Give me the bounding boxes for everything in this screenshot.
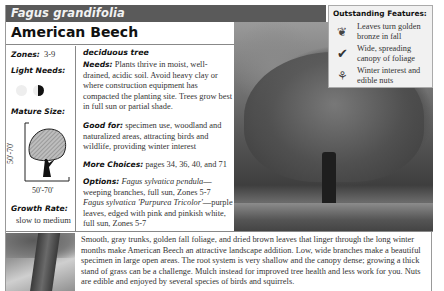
growth-rate-label: Growth Rate: xyxy=(11,204,68,213)
photo-ground xyxy=(234,203,433,231)
feature-item: ⚘ Winter interest and edible nuts xyxy=(329,66,434,86)
common-name: American Beech xyxy=(11,24,138,40)
common-name-bar: American Beech xyxy=(6,22,234,45)
feature-text: Wide, spreading canopy of foliage xyxy=(357,44,433,63)
description-text: Smooth, gray trunks, golden fall foliage… xyxy=(81,235,431,288)
more-choices-section: More Choices: pages 34, 36, 40, and 71 xyxy=(83,160,233,171)
options-label: Options: xyxy=(83,177,119,186)
full-sun-icon xyxy=(16,85,27,96)
options-section: Options: Fagus sylvatica pendula—weeping… xyxy=(83,177,233,230)
details-column: deciduous tree Needs: Plants thrive in m… xyxy=(77,46,233,231)
more-choices-text: pages 34, 36, 40, and 71 xyxy=(145,160,226,169)
good-for-label: Good for: xyxy=(83,121,123,130)
more-choices-label: More Choices: xyxy=(83,160,143,169)
zones-value: 3-9 xyxy=(44,49,55,59)
twig-icon: ⚘ xyxy=(335,69,349,83)
checkmark-icon: ✔ xyxy=(335,47,349,61)
growth-rate-value: slow to medium xyxy=(16,215,71,225)
feature-item: ✔ Wide, spreading canopy of foliage xyxy=(329,44,434,64)
zones-label: Zones: xyxy=(11,50,40,59)
latin-name: Fagus grandifolia xyxy=(11,6,125,20)
mature-size-label: Mature Size: xyxy=(11,107,65,116)
outstanding-features-box: Outstanding Features: ❦ Leaves turn gold… xyxy=(328,5,433,88)
good-for-section: Good for: specimen use, woodland and nat… xyxy=(83,121,233,153)
feature-item: ❦ Leaves turn golden bronze in fall xyxy=(329,22,434,42)
latin-name-bar: Fagus grandifolia xyxy=(6,5,326,22)
plant-type: deciduous tree xyxy=(83,48,149,57)
light-needs-label: Light Needs: xyxy=(11,66,65,75)
option1-name: Fagus sylvatica pendula xyxy=(121,177,203,186)
partial-shade-icon xyxy=(33,85,44,96)
trunk-photo xyxy=(6,233,75,291)
leaf-icon: ❦ xyxy=(335,25,349,39)
feature-text: Leaves turn golden bronze in fall xyxy=(357,22,433,41)
feature-text: Winter interest and edible nuts xyxy=(357,66,433,85)
description-section: Smooth, gray trunks, golden fall foliage… xyxy=(6,231,433,291)
plant-profile-page: Fagus grandifolia American Beech Zones: … xyxy=(5,5,432,291)
needs-label: Needs: xyxy=(83,60,113,69)
quick-facts-column: Zones: 3-9 Light Needs: Mature Size: 50'… xyxy=(6,46,76,231)
needs-section: Needs: Plants thrive in moist, well-drai… xyxy=(83,60,233,113)
height-value: 50'-70' xyxy=(6,142,15,164)
features-title: Outstanding Features: xyxy=(333,9,427,18)
width-value: 50'-70' xyxy=(32,186,54,195)
option2-name: Fagus sylvatica 'Purpurea Tricolor' xyxy=(83,198,203,207)
